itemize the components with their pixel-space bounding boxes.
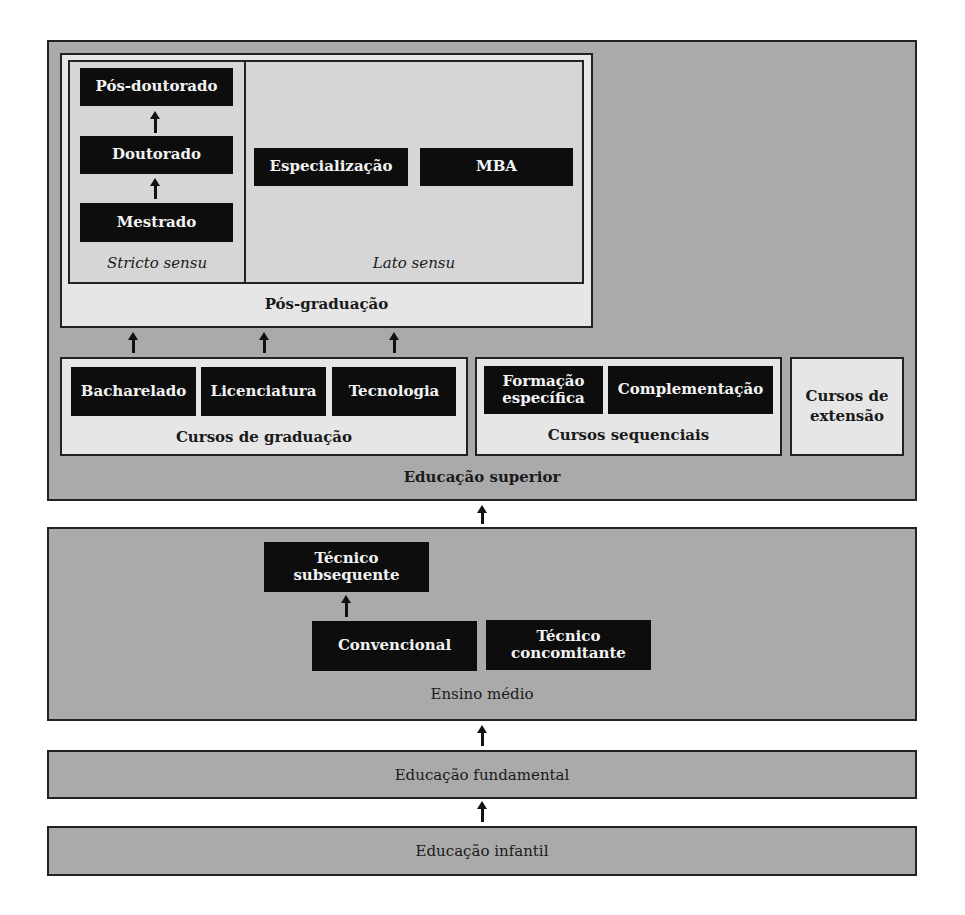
ensino-medio-label: Ensino médio [47,685,917,703]
educacao-infantil-label: Educação infantil [416,842,549,860]
educacao-fundamental-label: Educação fundamental [395,766,570,784]
arrow-up-icon [393,338,396,353]
concomitante-line2: concomitante [511,645,626,662]
lato-sensu-label: Lato sensu [246,254,582,272]
convencional-box: Convencional [312,621,477,671]
pos-doutorado-box: Pós-doutorado [80,68,233,106]
formacao-especifica-box: Formação específica [484,366,603,414]
arrow-up-icon [154,117,157,133]
tecnico-subsequente-box: Técnico subsequente [264,542,429,592]
stricto-sensu-label: Stricto sensu [70,254,244,272]
formacao-line2: específica [502,390,585,407]
tecnologia-box: Tecnologia [332,367,456,416]
licenciatura-box: Licenciatura [201,367,326,416]
arrow-up-icon [345,601,348,617]
arrow-up-icon [481,731,484,746]
complementacao-box: Complementação [608,366,773,414]
bacharelado-box: Bacharelado [71,367,196,416]
cursos-extensao-box: Cursos de extensão [790,357,904,456]
extensao-line1: Cursos de [806,387,889,407]
mestrado-box: Mestrado [80,203,233,242]
cursos-sequenciais-label: Cursos sequenciais [475,426,782,444]
educacao-infantil-box: Educação infantil [47,826,917,876]
cursos-graduacao-label: Cursos de graduação [60,428,468,446]
especializacao-box: Especialização [254,148,408,186]
tecnico-concomitante-box: Técnico concomitante [486,620,651,670]
extensao-line2: extensão [810,407,884,427]
doutorado-box: Doutorado [80,136,233,174]
arrow-up-icon [263,338,266,353]
pos-graduacao-label: Pós-graduação [60,295,593,313]
arrow-up-icon [132,338,135,353]
educacao-superior-label: Educação superior [47,468,917,486]
arrow-up-icon [481,511,484,524]
arrow-up-icon [154,184,157,199]
subsequente-line1: Técnico [315,550,379,567]
concomitante-line1: Técnico [537,628,601,645]
formacao-line1: Formação [502,373,584,390]
stricto-lato-divider [244,61,246,283]
educacao-fundamental-box: Educação fundamental [47,750,917,799]
subsequente-line2: subsequente [293,567,399,584]
mba-box: MBA [420,148,573,186]
arrow-up-icon [481,807,484,822]
